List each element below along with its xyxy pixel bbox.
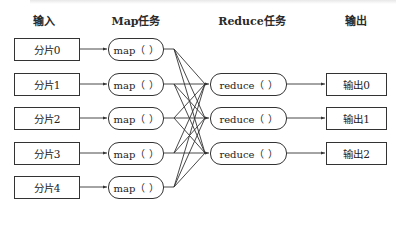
reduce-task-1: reduce（ ） (210, 107, 287, 130)
map-task-3: map（ ） (108, 142, 164, 165)
output-1: 输出1 (326, 107, 387, 130)
map-task-1: map（ ） (108, 73, 164, 96)
input-split-2: 分片2 (14, 107, 80, 130)
output-0: 输出0 (326, 73, 387, 96)
input-split-4: 分片4 (14, 176, 80, 199)
input-split-1: 分片1 (14, 73, 80, 96)
output-2: 输出2 (326, 142, 387, 165)
input-split-3: 分片3 (14, 142, 80, 165)
reduce-task-2: reduce（ ） (210, 142, 287, 165)
map-task-4: map（ ） (108, 176, 164, 199)
input-split-0: 分片0 (14, 38, 80, 61)
map-task-0: map（ ） (108, 38, 164, 61)
map-task-2: map（ ） (108, 107, 164, 130)
reduce-task-0: reduce（ ） (210, 73, 287, 96)
